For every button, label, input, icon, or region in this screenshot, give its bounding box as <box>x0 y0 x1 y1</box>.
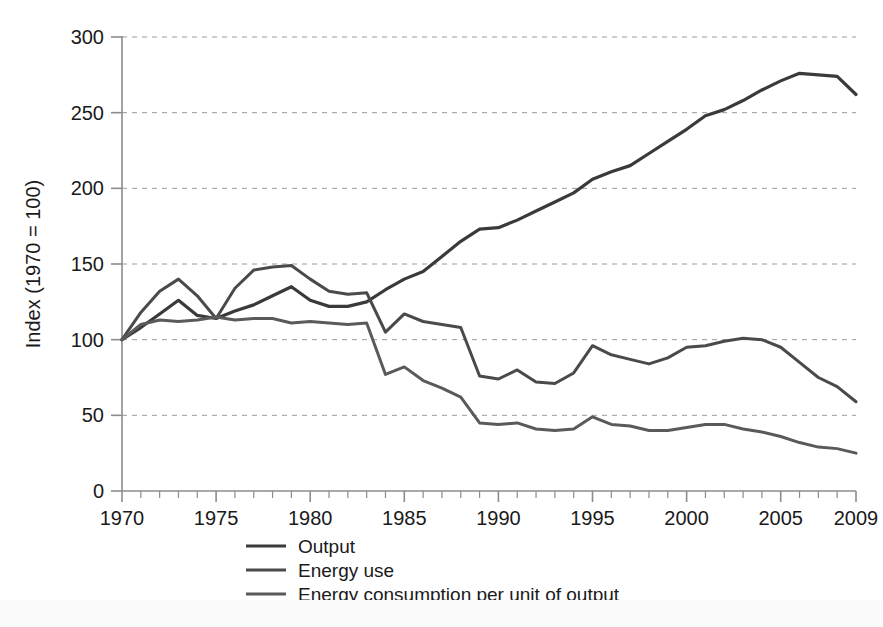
y-axis-ticks: 050100150200250300 <box>71 26 122 502</box>
line-chart-canvas: 0501001502002503001970197519801985199019… <box>0 0 883 627</box>
x-tick-label: 1975 <box>194 507 239 529</box>
y-tick-label: 0 <box>93 480 104 502</box>
y-tick-label: 150 <box>71 253 104 275</box>
chart-legend: OutputEnergy useEnergy consumption per u… <box>246 536 620 605</box>
x-tick-label: 2009 <box>834 507 879 529</box>
x-tick-label: 1990 <box>476 507 521 529</box>
legend-label: Energy use <box>298 560 394 581</box>
x-tick-label: 1985 <box>382 507 427 529</box>
y-tick-label: 50 <box>82 404 104 426</box>
x-tick-label: 1980 <box>288 507 333 529</box>
y-tick-label: 100 <box>71 329 104 351</box>
y-axis-label-text: Index (1970 = 100) <box>22 180 44 348</box>
legend-label: Output <box>298 536 356 557</box>
y-tick-label: 300 <box>71 26 104 48</box>
x-tick-label: 2000 <box>664 507 709 529</box>
series-line <box>122 73 856 339</box>
y-tick-label: 250 <box>71 102 104 124</box>
data-series-group <box>122 73 856 453</box>
y-axis-label: Index (1970 = 100) <box>22 180 44 348</box>
x-axis-ticks: 197019751980198519901995200020052009 <box>100 491 879 529</box>
chart-figure: 0501001502002503001970197519801985199019… <box>0 0 883 627</box>
x-tick-label: 1995 <box>570 507 615 529</box>
x-tick-label: 1970 <box>100 507 145 529</box>
x-tick-label: 2005 <box>758 507 803 529</box>
series-line <box>122 266 856 402</box>
scan-artifact-bottom <box>0 600 883 627</box>
gridlines <box>122 37 856 415</box>
y-tick-label: 200 <box>71 177 104 199</box>
